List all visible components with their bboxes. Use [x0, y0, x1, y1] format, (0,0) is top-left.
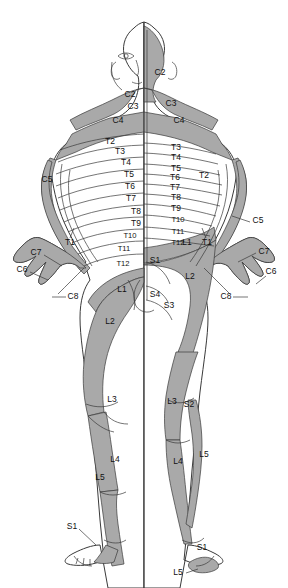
dermatome-label-t3-r: T3	[171, 142, 181, 152]
dermatome-label-s1-r: S1	[150, 255, 161, 265]
dermatome-label-c7-la: C7	[31, 247, 42, 257]
dermatome-label-t7-l: T7	[126, 193, 136, 203]
dermatome-label-t6-l: T6	[125, 181, 135, 191]
dermatome-label-s1-lf: S1	[67, 521, 78, 531]
leader-s1-left-foot	[79, 529, 96, 545]
dermatome-label-t2-ra: T2	[199, 170, 209, 180]
dermatome-label-l3-ll: L3	[107, 394, 117, 404]
dermatome-diagram: C2C2C3C3C4C4T2T3T4T5T6T7T8T9T10T11T12T3T…	[0, 0, 288, 588]
dermatome-label-c8-la: C8	[68, 291, 79, 301]
dermatome-label-c3-right: C3	[166, 98, 177, 108]
dermatome-label-t4-l: T4	[121, 157, 131, 167]
dermatome-label-t11-r: T11	[172, 227, 185, 236]
dermatome-label-t4-r: T4	[171, 152, 181, 162]
dermatome-label-t9-l: T9	[131, 218, 141, 228]
dermatome-label-l1-l: L1	[117, 284, 127, 294]
dermatome-label-l2-ll: L2	[105, 316, 115, 326]
dermatome-label-c2-right: C2	[155, 67, 166, 77]
contour-ear-left	[111, 62, 120, 79]
dermatome-label-t10-l: T10	[123, 231, 136, 240]
dermatome-label-s2-rl: S2	[184, 399, 195, 409]
dermatome-label-c6-ra: C6	[266, 266, 277, 276]
dermatome-label-t5-l: T5	[124, 169, 134, 179]
dermatome-label-c2-left: C2	[125, 89, 136, 99]
dermatome-label-s4-r: S4	[150, 289, 161, 299]
dermatome-label-t12-l: T12	[116, 259, 129, 268]
contour-left-forearm	[58, 268, 84, 294]
contour-ear-right	[168, 62, 177, 79]
dermatome-label-l5-rf: L5	[173, 567, 183, 577]
dermatome-label-l2-r: L2	[185, 271, 195, 281]
dermatome-label-c5-ra: C5	[253, 215, 264, 225]
dermatome-label-c5-la: C5	[42, 174, 53, 184]
dermatome-label-t10-r: T10	[171, 215, 184, 224]
dermatome-label-c3-left: C3	[128, 101, 139, 111]
dermatome-label-c4-right: C4	[174, 115, 185, 125]
dermatome-label-t8-l: T8	[131, 206, 141, 216]
dermatome-label-c4-left: C4	[113, 115, 124, 125]
dermatome-figure: C2C2C3C3C4C4T2T3T4T5T6T7T8T9T10T11T12T3T…	[0, 0, 288, 588]
leader-c6-right	[256, 276, 266, 284]
dermatome-label-t9-r: T9	[171, 203, 181, 213]
dermatome-label-l5-rl: L5	[199, 449, 209, 459]
dermatome-label-t11-l: T11	[118, 244, 131, 253]
dermatome-label-t1-ra: T1	[202, 237, 212, 247]
contour-face-jaw	[111, 62, 122, 90]
dermatome-label-t7-r: T7	[170, 182, 180, 192]
dermatome-label-l5-ll: L5	[95, 472, 105, 482]
dermatome-label-c8-ra: C8	[221, 291, 232, 301]
dermatome-label-t1-la: T1	[65, 237, 75, 247]
dermatome-label-l3-rl: L3	[167, 396, 177, 406]
dermatome-label-t8-r: T8	[171, 192, 181, 202]
dermatome-label-t6-r: T6	[170, 172, 180, 182]
dermatome-label-s3-r: S3	[164, 300, 175, 310]
dermatome-label-c6-la: C6	[17, 264, 28, 274]
dermatome-label-t2-l: T2	[105, 136, 115, 146]
dermatome-label-c7-ra: C7	[259, 246, 270, 256]
dermatome-label-l1-r: L1	[182, 237, 192, 247]
dermatome-label-l4-ll: L4	[110, 454, 120, 464]
dermatome-label-l4-rl: L4	[173, 456, 183, 466]
dermatome-label-t3-l: T3	[115, 146, 125, 156]
dermatome-label-s1-rf: S1	[197, 542, 208, 552]
